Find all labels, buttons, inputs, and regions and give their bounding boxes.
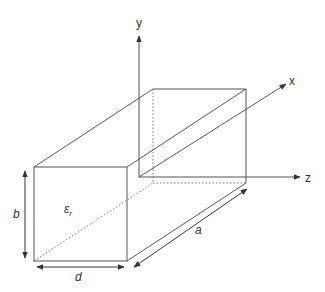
epsilon-subscript: r <box>69 209 72 218</box>
bottom-left-hidden-depth-edge <box>34 183 153 261</box>
z-axis-label: z <box>305 171 311 185</box>
waveguide-diagram: y x z b d a εr <box>0 0 325 292</box>
width-label: d <box>75 270 82 284</box>
top-left-depth-edge <box>34 89 153 167</box>
y-axis-label: y <box>136 16 142 30</box>
bottom-right-depth-edge <box>127 183 246 261</box>
length-dimension-arrow <box>134 189 247 267</box>
x-axis-label: x <box>289 74 295 88</box>
length-label: a <box>195 223 202 237</box>
height-label: b <box>13 207 20 221</box>
top-right-depth-edge <box>127 89 246 167</box>
front-face <box>34 167 127 261</box>
waveguide-box <box>34 89 246 261</box>
permittivity-label: εr <box>64 202 72 218</box>
dimension-markers <box>25 171 247 267</box>
x-axis <box>139 84 286 177</box>
